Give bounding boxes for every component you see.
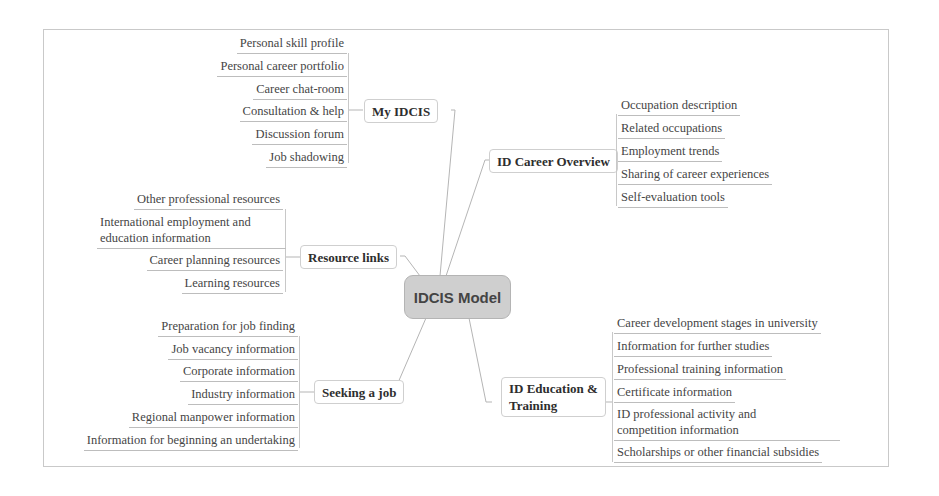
leaf-line: ID professional activity and <box>617 407 756 421</box>
group-bracket <box>348 53 349 163</box>
leaf-item[interactable]: Corporate information <box>180 364 298 382</box>
leaf-item[interactable]: Sharing of career experiences <box>618 167 772 185</box>
leaf-line: competition information <box>617 423 739 437</box>
leaf-item[interactable]: Job shadowing <box>266 150 347 168</box>
group-bracket <box>616 114 617 206</box>
leaf-item[interactable]: Job vacancy information <box>168 342 298 360</box>
leaf-item[interactable]: Career planning resources <box>147 253 284 271</box>
branch-id-education-training[interactable]: ID Education & Training <box>501 377 606 417</box>
leaf-item[interactable]: Certificate information <box>614 385 735 403</box>
branch-seeking-a-job[interactable]: Seeking a job <box>314 380 404 404</box>
branch-label: ID Career Overview <box>497 153 610 170</box>
leaf-item[interactable]: Industry information <box>188 387 298 405</box>
group-bracket <box>612 332 613 462</box>
leaf-item[interactable]: Discussion forum <box>252 127 347 145</box>
branch-label: My IDCIS <box>372 103 430 120</box>
leaf-item[interactable]: Information for beginning an undertaking <box>84 433 298 451</box>
branch-label: Resource links <box>308 249 389 266</box>
central-topic[interactable]: IDCIS Model <box>404 275 511 319</box>
group-bracket <box>299 336 300 448</box>
leaf-item[interactable]: Professional training information <box>614 362 786 380</box>
leaf-line: International employment and <box>100 215 251 229</box>
branch-my-idcis[interactable]: My IDCIS <box>364 99 438 123</box>
branch-label: Seeking a job <box>322 384 396 401</box>
leaf-item[interactable]: Self-evaluation tools <box>618 190 728 208</box>
leaf-item[interactable]: Learning resources <box>182 276 283 294</box>
branch-resource-links[interactable]: Resource links <box>300 245 397 269</box>
leaf-item[interactable]: Employment trends <box>618 144 722 162</box>
leaf-item[interactable]: Consultation & help <box>240 104 347 122</box>
leaf-item[interactable]: Scholarships or other financial subsidie… <box>614 445 822 463</box>
leaf-line: education information <box>100 231 211 245</box>
central-topic-label: IDCIS Model <box>414 289 502 306</box>
branch-label: Training <box>509 398 557 413</box>
leaf-item[interactable]: Occupation description <box>618 98 740 116</box>
leaf-item[interactable]: Preparation for job finding <box>158 319 298 337</box>
leaf-item[interactable]: ID professional activity and competition… <box>614 406 840 441</box>
leaf-item[interactable]: Personal skill profile <box>237 36 347 54</box>
leaf-item[interactable]: Related occupations <box>618 121 725 139</box>
leaf-item[interactable]: Personal career portfolio <box>217 59 347 77</box>
leaf-item[interactable]: Information for further studies <box>614 339 772 357</box>
leaf-item[interactable]: Career chat-room <box>253 82 347 100</box>
leaf-item[interactable]: Career development stages in university <box>614 316 821 334</box>
leaf-item[interactable]: International employment and education i… <box>97 214 286 249</box>
leaf-item[interactable]: Other professional resources <box>134 192 283 210</box>
leaf-item[interactable]: Regional manpower information <box>129 410 298 428</box>
branch-label: ID Education & <box>509 381 598 396</box>
branch-id-career-overview[interactable]: ID Career Overview <box>489 149 618 173</box>
